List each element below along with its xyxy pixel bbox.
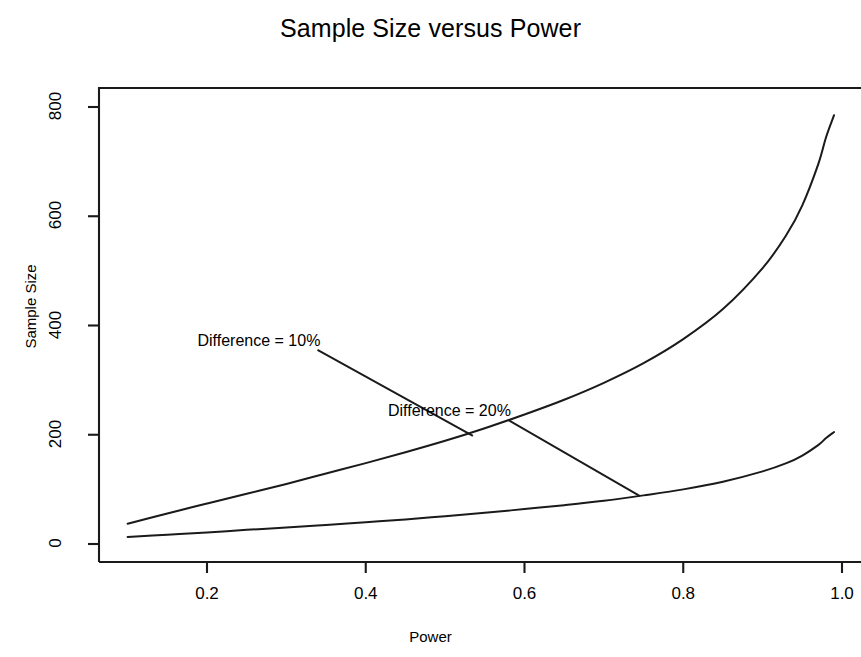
y-tick-label: 0 [46, 513, 66, 573]
annotation-leader-lines [317, 350, 639, 496]
x-tick-label: 0.6 [495, 584, 555, 604]
x-tick-label: 0.2 [177, 584, 237, 604]
x-axis-title: Power [0, 628, 861, 645]
axis-box [99, 88, 861, 562]
y-axis-title: Sample Size [22, 247, 39, 367]
curve-annotation-label: Difference = 20% [388, 402, 511, 420]
y-tick-label: 200 [46, 404, 66, 464]
curve-annotation-label: Difference = 10% [197, 332, 320, 350]
data-curves [128, 115, 834, 537]
x-tick-label: 0.8 [653, 584, 713, 604]
y-tick-label: 800 [46, 76, 66, 136]
chart-figure: Sample Size versus Power 0.20.40.60.81.0… [0, 0, 861, 657]
y-tick-label: 400 [46, 295, 66, 355]
plot-area [0, 0, 861, 657]
x-tick-label: 1.0 [812, 584, 861, 604]
x-tick-label: 0.4 [336, 584, 396, 604]
y-tick-label: 600 [46, 185, 66, 245]
